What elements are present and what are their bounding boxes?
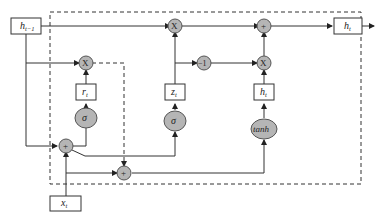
update-gate-box: zt [165,84,185,100]
svg-text:X: X [171,21,178,31]
candidate-tanh-node: tanh [251,119,277,139]
svg-text:−1: −1 [198,59,207,68]
svg-text:X: X [260,58,267,68]
svg-text:+: + [121,168,126,178]
reset-gate-box: rt [76,84,96,100]
cell-boundary [50,12,361,184]
input-box: xt [50,196,81,211]
update-sigmoid-node: σ [164,111,186,131]
top-multiply-node: X [168,19,182,33]
candidate-add-node: + [117,166,131,180]
reset-sigmoid-node: σ [75,108,97,128]
top-add-node: + [257,19,271,33]
prev-hidden-box: ht−1 [11,18,41,34]
output-hidden-box: ht [334,18,362,34]
candidate-multiply-node: X [257,56,271,70]
reset-multiply-node: X [79,56,93,70]
input-add-node: + [59,139,73,153]
candidate-box: ht [254,84,274,100]
svg-text:+: + [63,141,68,151]
svg-text:tanh: tanh [253,124,270,134]
svg-text:X: X [82,58,89,68]
gru-cell-diagram: ht−1 ht xt rt zt ht σ σ tanh X X [0,0,379,215]
svg-text:+: + [261,21,266,31]
one-minus-node: −1 [197,56,211,70]
